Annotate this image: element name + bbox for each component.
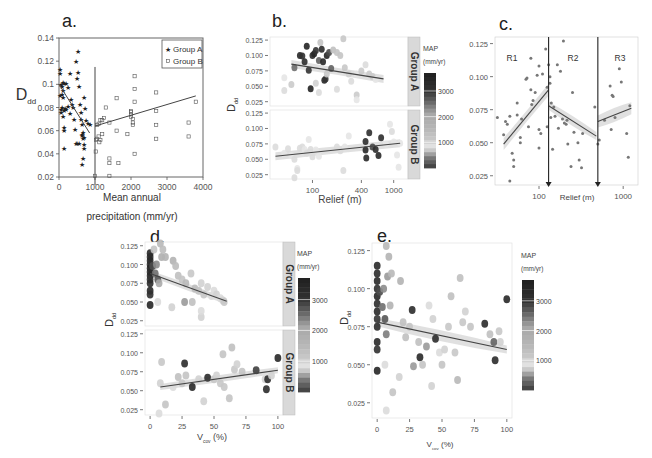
y-tick-label: 0.08 — [37, 103, 54, 113]
data-point — [593, 106, 596, 109]
y-tick-label: 0.075 — [120, 280, 138, 287]
data-point — [334, 86, 340, 93]
data-point — [385, 253, 392, 261]
data-point — [172, 262, 179, 270]
data-point — [189, 383, 196, 391]
data-point — [263, 385, 270, 393]
data-point — [306, 136, 312, 143]
facet-label: Group B — [409, 125, 420, 165]
colorbar-segment — [522, 381, 534, 386]
colorbar-segment — [298, 311, 310, 316]
data-point — [162, 400, 169, 408]
data-point — [228, 343, 235, 351]
y-tick-label: 0.050 — [120, 299, 138, 306]
data-point — [379, 303, 386, 311]
y-tick-label: 0.125 — [245, 110, 263, 117]
x-tick-label: 0 — [148, 422, 152, 431]
data-point — [538, 65, 541, 68]
data-point — [157, 379, 164, 387]
data-point — [394, 151, 400, 158]
colorbar-segment — [424, 152, 436, 156]
panel-a-scatter: a.0.020.040.060.080.10.120.1401000200030… — [16, 11, 213, 222]
colorbar-segment — [298, 302, 310, 307]
colorbar-segment — [424, 160, 436, 164]
x-axis-label: Mean annual — [103, 192, 161, 203]
y-tick-label: 0.025 — [120, 318, 138, 325]
data-point — [519, 141, 522, 144]
data-point — [337, 52, 343, 59]
data-point — [618, 67, 621, 70]
x-axis-label: Vcov (%) — [427, 440, 454, 451]
y-tick-label: 0.06 — [37, 126, 54, 136]
data-point — [397, 277, 404, 285]
colorbar-segment — [298, 378, 310, 383]
data-point — [526, 76, 529, 79]
data-point — [459, 318, 466, 326]
data-point — [532, 99, 535, 102]
data-point-star: ★ — [63, 106, 69, 113]
data-point — [529, 88, 532, 91]
data-point — [363, 155, 369, 162]
data-point — [324, 70, 330, 77]
data-point — [625, 132, 628, 135]
data-point — [581, 132, 584, 135]
data-point — [544, 47, 547, 50]
y-tick-label: 0.075 — [120, 369, 138, 376]
data-point — [374, 315, 381, 323]
colorbar-segment — [424, 73, 436, 77]
data-point — [610, 128, 613, 131]
y-tick-label: 0.02 — [37, 172, 54, 182]
colorbar-segment — [522, 353, 534, 358]
data-point — [551, 148, 554, 151]
data-point — [554, 115, 557, 118]
data-point — [445, 323, 452, 331]
data-point — [200, 397, 207, 405]
data-point — [430, 315, 437, 323]
colorbar-segment — [424, 148, 436, 152]
data-point-star: ★ — [82, 105, 88, 112]
x-tick-label: 4000 — [194, 182, 213, 192]
data-point — [373, 146, 379, 153]
colorbar-segment — [298, 283, 310, 288]
colorbar-tick-label: 3000 — [438, 88, 454, 95]
y-tick-label: 0.125 — [120, 331, 138, 338]
region-label: R3 — [615, 53, 626, 63]
data-point — [388, 269, 395, 277]
colorbar-segment — [522, 335, 534, 340]
data-point — [340, 167, 346, 174]
data-point — [291, 156, 297, 163]
region-label: R2 — [568, 53, 579, 63]
colorbar-segment — [522, 312, 534, 317]
colorbar-segment — [298, 278, 310, 283]
y-tick-label: 0.125 — [120, 243, 138, 250]
data-point — [556, 63, 559, 66]
colorbar-segment — [522, 294, 534, 299]
colorbar-segment — [522, 340, 534, 345]
facet-label: Group A — [409, 52, 420, 92]
data-point — [508, 180, 511, 183]
data-point-star: ★ — [60, 94, 66, 101]
x-tick-label: 100 — [532, 192, 546, 201]
colorbar-segment — [424, 109, 436, 113]
x-tick-label: 0 — [375, 425, 379, 434]
data-point — [188, 270, 195, 278]
data-point — [220, 350, 227, 358]
y-tick-label: 0.125 — [347, 248, 365, 255]
data-point — [382, 315, 389, 323]
colorbar-title: MAP — [521, 252, 537, 259]
colorbar-segment — [522, 317, 534, 322]
colorbar-tick-label: 2000 — [536, 328, 552, 335]
panel-d-faceted-scatter: d.0.0250.0500.0750.1000.125Group A0.0250… — [103, 227, 328, 444]
colorbar-segment — [522, 367, 534, 372]
data-point — [354, 96, 360, 103]
data-point — [628, 104, 631, 107]
data-point — [363, 61, 369, 68]
x-axis-label: Relief (m) — [560, 193, 595, 202]
colorbar-segment — [424, 121, 436, 125]
data-point — [417, 353, 424, 361]
data-point-star: ★ — [87, 121, 93, 128]
y-tick-label: 0.100 — [120, 262, 138, 269]
colorbar-tick-label: 2000 — [312, 327, 328, 334]
colorbar-segment — [298, 292, 310, 297]
data-point — [374, 367, 381, 375]
